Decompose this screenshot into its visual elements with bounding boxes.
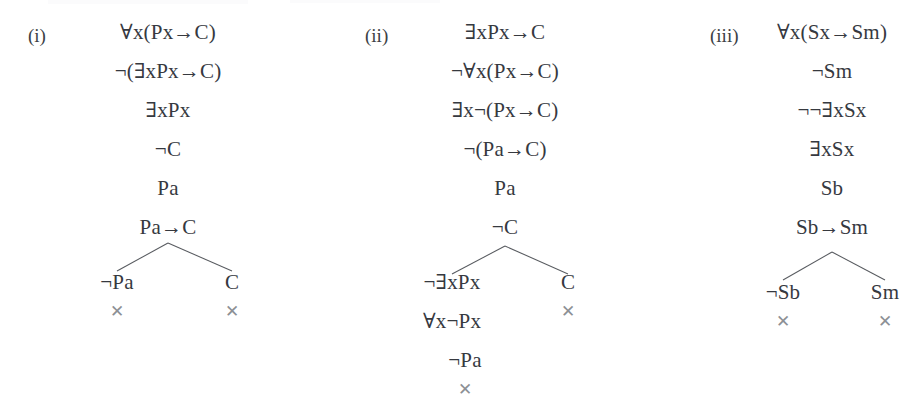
tableau-formula-trunk: ¬Sm [812,61,852,82]
tableau-formula-trunk: ∃xSx [810,139,855,160]
proof-tree-tree-iii: (iii)∀x(Sx→Sm)¬Sm¬¬∃xSx∃xSxSbSb→Sm¬SbSm✕… [0,0,924,414]
tableau-formula-trunk: Sb [821,178,844,199]
tableau-formula-trunk: Sb→Sm [796,217,868,238]
branch-closed-cross-icon: ✕ [776,313,790,330]
tableau-formula-trunk: ¬¬∃xSx [798,100,867,121]
tree-label-tree-iii: (iii) [710,26,739,45]
tableau-formula-left-branch: ¬Sb [766,282,801,303]
tableau-formula-trunk: ∀x(Sx→Sm) [777,22,887,43]
tableau-formula-right-branch: Sm [871,282,899,303]
branch-closed-cross-icon: ✕ [878,313,892,330]
